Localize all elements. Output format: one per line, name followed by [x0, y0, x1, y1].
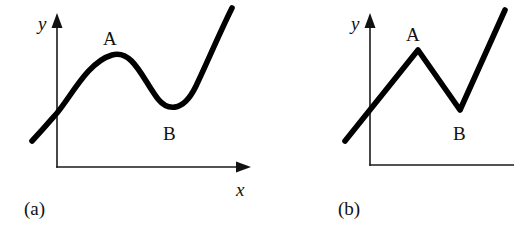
panel-b-caption: (b): [338, 199, 360, 218]
figure-root: y x A B y A B (a) (b): [0, 0, 514, 240]
figure-canvas: y x A B y A B: [0, 0, 514, 240]
panel-a-x-axis-arrow-icon: [236, 162, 251, 173]
panel-b-y-axis-arrow-icon: [365, 13, 376, 28]
panel-b: y A B: [345, 10, 514, 165]
panel-b-y-axis-label: y: [349, 13, 360, 34]
panel-b-polyline: [345, 10, 505, 141]
panel-a-y-axis-arrow-icon: [52, 13, 63, 28]
panel-a-y-axis-label: y: [36, 13, 47, 34]
panel-a-x-axis-label: x: [235, 179, 245, 200]
panel-a-caption: (a): [24, 199, 45, 218]
panel-a-point-label-b: B: [163, 123, 176, 144]
panel-a-point-label-a: A: [103, 28, 117, 49]
panel-b-point-label-b: B: [453, 123, 466, 144]
panel-b-point-label-a: A: [406, 24, 420, 45]
panel-a: y x A B: [32, 8, 251, 200]
